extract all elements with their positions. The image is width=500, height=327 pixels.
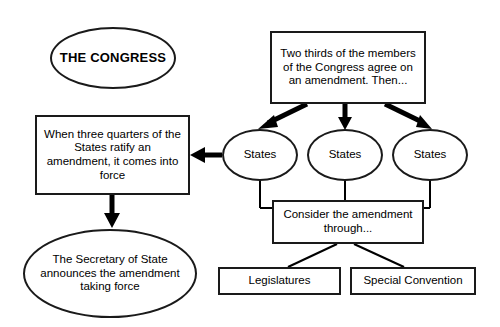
node-two-thirds-agreement[interactable]: Two thirds of the members of the Congres… <box>270 31 426 104</box>
edge-twothirds-to-states2 <box>338 104 352 130</box>
edge-twothirds-to-states3 <box>385 104 432 129</box>
edge-consider-to-options <box>288 244 404 267</box>
node-states-3[interactable]: States <box>392 129 468 181</box>
node-consider-amendment[interactable]: Consider the amendment through... <box>272 200 424 244</box>
node-label: When three quarters of the States ratify… <box>37 128 188 182</box>
node-special-convention[interactable]: Special Convention <box>350 267 476 295</box>
node-label: Special Convention <box>359 274 466 288</box>
node-label: Legislatures <box>244 274 314 288</box>
node-legislatures[interactable]: Legislatures <box>218 267 341 295</box>
node-three-quarters-ratify[interactable]: When three quarters of the States ratify… <box>35 115 190 195</box>
node-states-2[interactable]: States <box>307 129 383 181</box>
node-label: The Secretary of State announces the ame… <box>25 253 195 294</box>
node-label: States <box>325 148 366 162</box>
node-secretary-of-state[interactable]: The Secretary of State announces the ame… <box>23 229 197 318</box>
node-label: THE CONGRESS <box>56 50 170 65</box>
node-states-1[interactable]: States <box>222 129 298 181</box>
node-the-congress[interactable]: THE CONGRESS <box>50 27 176 89</box>
edge-twothirds-to-states1 <box>258 104 307 129</box>
node-label: Two thirds of the members of the Congres… <box>272 47 424 88</box>
edge-ratify-to-secretary <box>104 195 120 228</box>
flowchart-canvas: THE CONGRESS Two thirds of the members o… <box>0 0 500 327</box>
edge-states1-to-ratify <box>190 147 222 163</box>
node-label: States <box>410 148 451 162</box>
node-label: States <box>240 148 281 162</box>
node-label: Consider the amendment through... <box>274 208 422 235</box>
